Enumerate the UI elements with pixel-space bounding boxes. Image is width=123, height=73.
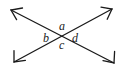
angle-label-c: c [59,39,64,51]
intersecting-lines-figure: a b c d [0,0,123,73]
angle-label-a: a [59,20,65,32]
line-group [11,9,114,63]
figure-canvas [0,0,123,73]
arrow-northwest-icon [11,8,23,20]
angle-label-b: b [43,32,49,44]
arrow-southeast-icon [103,51,115,63]
angle-label-d: d [72,32,78,44]
arrow-northeast-icon [101,7,112,19]
